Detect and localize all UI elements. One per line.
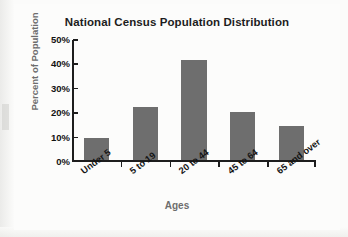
y-axis-tick-mark <box>73 63 78 65</box>
y-axis-tick-mark <box>73 137 78 139</box>
y-axis-tick: 30% <box>22 83 78 95</box>
y-axis-tick-label: 30% <box>51 83 70 95</box>
x-axis-tick-mark <box>218 162 220 167</box>
y-axis-tick-label: 10% <box>51 132 70 144</box>
y-axis-tick: 50% <box>22 34 78 46</box>
x-axis-tick-mark <box>170 162 172 167</box>
bar <box>133 107 158 161</box>
bar <box>181 60 206 160</box>
scan-artifact-mark <box>2 104 9 130</box>
y-axis-tick: 10% <box>22 132 78 144</box>
y-axis-tick-mark <box>73 39 78 41</box>
x-axis-tick-mark <box>121 162 123 167</box>
y-axis-tick-label: 0% <box>56 156 70 168</box>
y-axis-tick-label: 40% <box>51 58 70 70</box>
bar-chart: National Census Population Distribution … <box>14 4 340 230</box>
x-axis-tick-mark <box>267 162 269 167</box>
plot-area: 0%10%20%30%40%50% <box>72 40 316 162</box>
y-axis-tick-mark <box>73 112 78 114</box>
x-axis-label: Ages <box>14 200 340 211</box>
x-axis-tick-mark <box>314 162 316 167</box>
y-axis-tick-label: 50% <box>51 34 70 46</box>
y-axis-tick-label: 20% <box>51 107 70 119</box>
scanned-page: National Census Population Distribution … <box>0 0 348 237</box>
y-axis-tick-mark <box>73 88 78 90</box>
y-axis-tick: 0% <box>22 156 78 168</box>
y-axis-tick: 20% <box>22 107 78 119</box>
chart-title: National Census Population Distribution <box>14 16 340 28</box>
y-axis-tick: 40% <box>22 58 78 70</box>
